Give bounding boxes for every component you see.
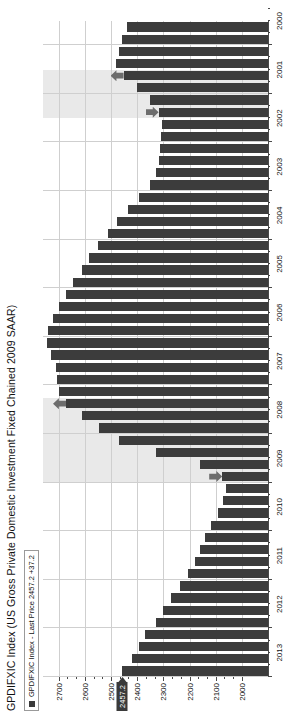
bar[interactable] — [89, 253, 268, 262]
value-minor-tick — [146, 677, 147, 679]
category-minor-tick — [268, 117, 270, 118]
bar[interactable] — [226, 484, 268, 493]
bar[interactable] — [188, 569, 268, 578]
bar[interactable] — [161, 132, 268, 141]
bar[interactable] — [122, 35, 268, 44]
bar[interactable] — [222, 472, 268, 481]
bar[interactable] — [66, 290, 268, 299]
category-minor-tick — [268, 506, 270, 507]
bar[interactable] — [56, 363, 268, 372]
category-minor-tick — [268, 457, 270, 458]
legend-label: GPDIFXIC Index - Last Price 2457.2 +37.2 — [27, 555, 36, 697]
bar[interactable] — [163, 606, 268, 615]
value-minor-tick — [207, 677, 208, 679]
bar[interactable] — [98, 241, 268, 250]
bar[interactable] — [200, 460, 268, 469]
chart-legend[interactable]: GPDIFXIC Index - Last Price 2457.2 +37.2 — [24, 550, 39, 711]
bar[interactable] — [124, 71, 268, 80]
value-minor-tick — [102, 677, 103, 679]
bar[interactable] — [119, 436, 268, 445]
bar[interactable] — [150, 180, 268, 189]
value-minor-tick — [233, 677, 234, 679]
category-gridline — [43, 190, 268, 191]
category-tick — [268, 482, 272, 483]
bar[interactable] — [205, 533, 268, 542]
category-gridline — [43, 433, 268, 434]
value-minor-tick — [224, 677, 225, 679]
category-gridline — [43, 530, 268, 531]
bar[interactable] — [156, 448, 269, 457]
bar[interactable] — [156, 618, 269, 627]
value-tick — [111, 677, 112, 681]
value-tick — [59, 677, 60, 681]
category-minor-tick — [268, 32, 270, 33]
value-tick-label: 2600 — [80, 683, 89, 701]
bar[interactable] — [160, 144, 268, 153]
bar[interactable] — [51, 350, 268, 359]
category-minor-tick — [268, 8, 270, 9]
bar[interactable] — [223, 496, 268, 505]
value-tick-label: 2000 — [237, 683, 246, 701]
arrow-down-marker-icon — [209, 471, 222, 482]
value-tick-label: 2300 — [159, 683, 168, 701]
arrow-up-marker-icon — [53, 398, 66, 409]
category-gridline — [43, 239, 268, 240]
bar[interactable] — [82, 411, 268, 420]
bar[interactable] — [159, 108, 268, 117]
bar[interactable] — [150, 95, 268, 104]
category-tick — [268, 336, 272, 337]
bar[interactable] — [48, 326, 268, 335]
plot-inner — [43, 21, 268, 677]
bar[interactable] — [57, 375, 268, 384]
category-gridline — [43, 287, 268, 288]
bar[interactable] — [82, 265, 268, 274]
value-tick — [163, 677, 164, 681]
bar[interactable] — [108, 229, 268, 238]
bar[interactable] — [66, 399, 268, 408]
bar[interactable] — [99, 423, 268, 432]
bar[interactable] — [59, 387, 268, 396]
bar[interactable] — [159, 156, 268, 165]
bar[interactable] — [122, 666, 268, 675]
category-minor-tick — [268, 81, 270, 82]
category-tick — [268, 627, 272, 628]
category-tick — [268, 384, 272, 385]
category-gridline — [43, 141, 268, 142]
bar[interactable] — [47, 338, 268, 347]
category-minor-tick — [268, 348, 270, 349]
bar[interactable] — [156, 168, 269, 177]
bar[interactable] — [73, 278, 268, 287]
bar[interactable] — [137, 83, 268, 92]
category-minor-tick — [268, 615, 270, 616]
bar[interactable] — [218, 508, 268, 517]
bar[interactable] — [128, 205, 268, 214]
value-tick — [85, 677, 86, 681]
bar[interactable] — [53, 314, 268, 323]
value-minor-tick — [181, 677, 182, 679]
category-minor-tick — [268, 178, 270, 179]
value-tick-label: 2200 — [185, 683, 194, 701]
bar[interactable] — [127, 22, 268, 31]
bar[interactable] — [117, 217, 268, 226]
bar[interactable] — [139, 193, 269, 202]
last-price-flag: 2457.2 — [117, 682, 128, 711]
bar[interactable] — [116, 59, 268, 68]
bar[interactable] — [59, 302, 268, 311]
value-minor-tick — [198, 677, 199, 679]
category-minor-tick — [268, 105, 270, 106]
category-axis: 2013201220112010200920082007200620052004… — [268, 21, 269, 677]
bar[interactable] — [162, 120, 268, 129]
bar[interactable] — [200, 545, 268, 554]
category-minor-tick — [268, 166, 270, 167]
bar[interactable] — [132, 654, 268, 663]
category-tick — [268, 530, 272, 531]
bar[interactable] — [119, 47, 268, 56]
bar[interactable] — [180, 581, 268, 590]
category-minor-tick — [268, 129, 270, 130]
bar[interactable] — [145, 630, 268, 639]
bar[interactable] — [171, 593, 268, 602]
bar[interactable] — [211, 521, 268, 530]
bar[interactable] — [139, 642, 268, 651]
bar[interactable] — [195, 557, 268, 566]
arrow-up-marker-icon — [111, 70, 124, 81]
